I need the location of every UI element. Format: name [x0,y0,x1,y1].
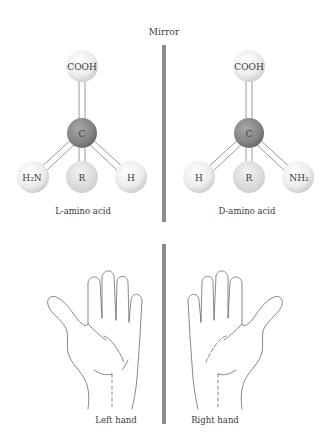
l-amino-acid-model: COOH C H₂N R H L-amino acid [17,50,147,216]
cooh-label: COOH [67,62,97,72]
cooh-label: COOH [234,62,264,72]
d-amino-acid-caption: D-amino acid [219,206,277,216]
amine-label: H₂N [22,173,41,183]
mirror-line-bottom [162,244,166,424]
hydrogen-label: H [127,173,135,183]
right-hand-drawing [188,271,282,410]
right-hand-caption: Right hand [191,415,239,425]
amine-label: NH₂ [289,173,309,183]
d-amino-acid-model: COOH C H R NH₂ D-amino acid [183,50,314,216]
mirror-label: Mirror [149,27,180,37]
chirality-diagram: Mirror COOH C H₂N R H L-amino acid [0,0,332,443]
left-hand-caption: Left hand [95,415,137,425]
left-hand-drawing [48,271,142,410]
l-amino-acid-caption: L-amino acid [55,206,111,216]
carbon-label: C [79,129,86,139]
mirror-line-top [162,45,166,222]
r-group-label: R [79,173,86,183]
r-group-label: R [246,173,253,183]
hydrogen-label: H [195,173,203,183]
carbon-label: C [246,129,253,139]
